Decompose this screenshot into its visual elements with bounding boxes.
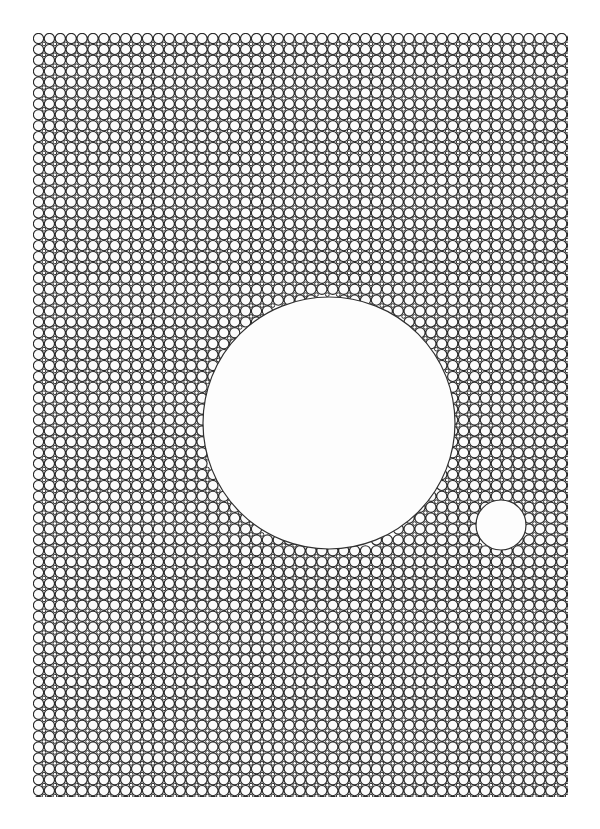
small-void-circle	[476, 500, 526, 550]
figure-root	[0, 0, 600, 829]
circle-packing-figure	[0, 0, 600, 829]
large-void-circle	[203, 297, 455, 549]
